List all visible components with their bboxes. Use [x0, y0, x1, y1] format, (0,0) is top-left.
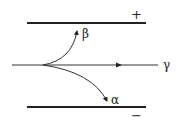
negative-sign: − — [131, 108, 142, 123]
gamma-arrowhead-icon — [116, 63, 122, 68]
gamma-label: γ — [163, 58, 170, 72]
alpha-label: α — [111, 93, 119, 107]
radiation-deflection-diagram: + − γ β α — [0, 0, 178, 123]
alpha-ray-path — [43, 65, 107, 101]
positive-sign: + — [131, 7, 142, 22]
beta-ray-path — [43, 31, 77, 65]
beta-label: β — [82, 27, 89, 41]
